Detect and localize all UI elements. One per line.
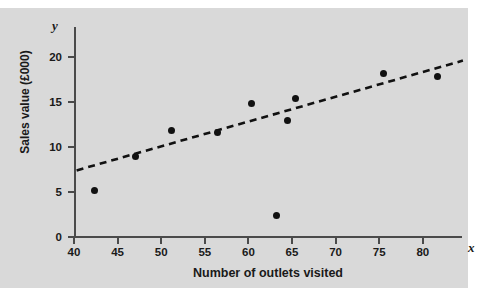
x-tick — [117, 238, 119, 244]
x-tick-label: 70 — [316, 246, 356, 258]
x-tick — [73, 238, 75, 244]
y-tick — [68, 56, 74, 58]
x-tick-label: 55 — [185, 246, 225, 258]
x-tick-label: 45 — [98, 246, 138, 258]
y-tick-label: 0 — [30, 231, 62, 243]
data-point — [91, 187, 98, 194]
x-tick-label: 60 — [228, 246, 268, 258]
x-tick-label: 50 — [141, 246, 181, 258]
data-point — [273, 212, 280, 219]
x-tick — [335, 238, 337, 244]
x-tick — [204, 238, 206, 244]
x-tick — [378, 238, 380, 244]
data-point — [284, 117, 291, 124]
x-tick — [160, 238, 162, 244]
x-axis-symbol: x — [468, 240, 475, 256]
y-tick-label: 20 — [30, 51, 62, 63]
x-tick-label: 65 — [272, 246, 312, 258]
data-point — [292, 95, 299, 102]
y-tick — [68, 191, 74, 193]
scatter-plot-figure: y x Sales value (£000) Number of outlets… — [0, 0, 490, 299]
y-tick-label: 5 — [30, 186, 62, 198]
x-tick-label: 75 — [359, 246, 399, 258]
x-tick — [247, 238, 249, 244]
y-tick — [68, 146, 74, 148]
data-point — [132, 153, 139, 160]
x-tick-label: 40 — [54, 246, 94, 258]
data-point — [214, 129, 221, 136]
y-axis-symbol: y — [52, 18, 58, 34]
y-tick-label: 15 — [30, 96, 62, 108]
x-axis-title: Number of outlets visited — [74, 266, 462, 280]
y-tick — [68, 101, 74, 103]
x-axis-line — [74, 236, 462, 238]
y-axis-line — [74, 27, 76, 238]
x-tick — [422, 238, 424, 244]
y-tick-label: 10 — [30, 141, 62, 153]
x-tick — [291, 238, 293, 244]
x-tick-label: 80 — [403, 246, 443, 258]
data-point — [248, 100, 255, 107]
data-point — [380, 70, 387, 77]
